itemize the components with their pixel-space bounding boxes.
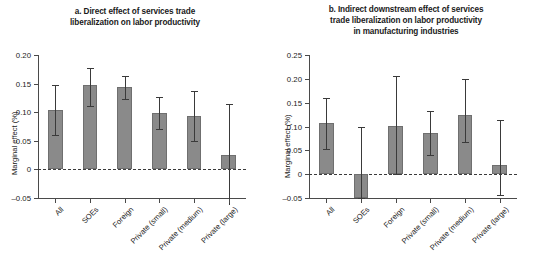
x-tick xyxy=(194,199,195,203)
panel-a: a. Direct effect of services trade liber… xyxy=(0,0,270,261)
y-tick xyxy=(305,198,309,199)
error-cap-lower xyxy=(156,129,163,130)
x-tick xyxy=(55,199,56,203)
error-bar xyxy=(326,98,327,149)
error-cap-upper xyxy=(497,120,504,121)
y-tick-label: 0.20 xyxy=(269,74,302,83)
y-axis xyxy=(38,55,39,198)
panel-b: b. Indirect downstream effect of service… xyxy=(271,0,541,261)
error-bar xyxy=(500,120,501,195)
error-cap-lower xyxy=(323,149,330,150)
y-tick-label: 0.10 xyxy=(269,122,302,131)
x-tick xyxy=(90,199,91,203)
panel-b-title-line-1: b. Indirect downstream effect of service… xyxy=(285,4,527,15)
x-tick xyxy=(500,199,501,203)
y-tick-label: 0.15 xyxy=(269,98,302,107)
x-tick xyxy=(396,199,397,203)
y-tick xyxy=(305,150,309,151)
y-tick xyxy=(305,79,309,80)
panel-a-plot-area: –0.0500.050.100.150.20AllSOEsForeignPriv… xyxy=(38,55,246,198)
y-tick-label: 0.05 xyxy=(0,136,31,145)
x-tick xyxy=(361,199,362,203)
zero-reference-line xyxy=(38,169,246,170)
error-cap-upper xyxy=(393,76,400,77)
y-tick xyxy=(305,55,309,56)
error-cap-lower xyxy=(122,99,129,100)
panel-a-title-line-1: a. Direct effect of services trade xyxy=(14,6,256,17)
error-bar xyxy=(229,104,230,205)
y-tick-label: 0.10 xyxy=(0,108,31,117)
error-cap-upper xyxy=(226,104,233,105)
error-cap-lower xyxy=(393,174,400,175)
y-tick-label: 0.05 xyxy=(269,146,302,155)
error-cap-upper xyxy=(427,111,434,112)
panel-b-plot-area: –0.0500.050.100.150.200.25AllSOEsForeign… xyxy=(309,55,517,198)
x-tick xyxy=(125,199,126,203)
y-axis xyxy=(309,55,310,198)
error-bar xyxy=(430,111,431,154)
panel-a-title-line-2: liberalization on labor productivity xyxy=(14,17,256,28)
figure-container: a. Direct effect of services trade liber… xyxy=(0,0,541,261)
error-cap-lower xyxy=(427,155,434,156)
y-tick-label: –0.05 xyxy=(0,194,31,203)
error-cap-upper xyxy=(323,98,330,99)
error-bar xyxy=(55,85,56,134)
panel-b-title: b. Indirect downstream effect of service… xyxy=(271,4,541,37)
error-bar xyxy=(465,79,466,142)
error-cap-upper xyxy=(122,76,129,77)
error-bar xyxy=(194,91,195,141)
error-cap-upper xyxy=(156,97,163,98)
x-tick xyxy=(229,199,230,203)
y-tick xyxy=(34,112,38,113)
error-bar xyxy=(90,68,91,106)
error-bar xyxy=(159,97,160,129)
y-tick-label: –0.05 xyxy=(269,194,302,203)
y-tick-label: 0 xyxy=(269,170,302,179)
y-tick-label: 0 xyxy=(0,165,31,174)
error-cap-upper xyxy=(462,79,469,80)
error-cap-upper xyxy=(52,85,59,86)
y-tick-label: 0.25 xyxy=(269,51,302,60)
y-tick xyxy=(34,198,38,199)
error-cap-upper xyxy=(191,91,198,92)
error-cap-lower xyxy=(87,106,94,107)
error-cap-lower xyxy=(462,142,469,143)
x-tick xyxy=(159,199,160,203)
y-tick xyxy=(305,127,309,128)
zero-reference-line xyxy=(309,174,517,175)
y-tick xyxy=(34,55,38,56)
panel-b-title-line-2: trade liberalization on labor productivi… xyxy=(285,15,527,26)
y-tick xyxy=(34,141,38,142)
error-cap-upper xyxy=(87,68,94,69)
error-cap-lower xyxy=(497,195,504,196)
error-cap-upper xyxy=(358,127,365,128)
panel-a-title: a. Direct effect of services trade liber… xyxy=(0,6,270,28)
x-tick xyxy=(430,199,431,203)
y-tick-label: 0.15 xyxy=(0,79,31,88)
x-tick xyxy=(326,199,327,203)
y-tick xyxy=(305,103,309,104)
x-tick xyxy=(465,199,466,203)
error-cap-lower xyxy=(52,135,59,136)
error-bar xyxy=(361,127,362,198)
x-axis xyxy=(38,198,246,199)
y-tick xyxy=(34,84,38,85)
x-axis xyxy=(309,198,517,199)
error-cap-lower xyxy=(191,141,198,142)
y-tick-label: 0.20 xyxy=(0,51,31,60)
error-bar xyxy=(125,76,126,99)
panel-b-title-line-3: in manufacturing industries xyxy=(285,26,527,37)
error-bar xyxy=(396,76,397,173)
